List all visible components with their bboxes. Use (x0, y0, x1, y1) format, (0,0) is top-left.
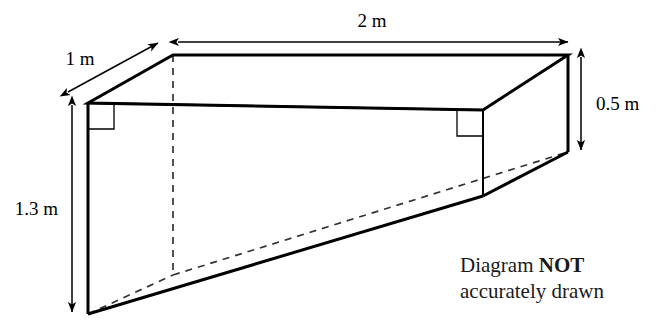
note-line-1-prefix: Diagram (460, 253, 539, 277)
note-line-1: Diagram NOT (460, 253, 584, 277)
edge-top-face (88, 55, 568, 110)
right-angle-marker-left (88, 103, 114, 129)
label-short-height: 0.5 m (596, 93, 640, 114)
edge-front-bottom-slope (88, 196, 483, 314)
label-tall-height: 1.3 m (15, 198, 59, 219)
note-line-2: accurately drawn (460, 279, 604, 303)
label-depth: 1 m (65, 48, 94, 69)
note-line-1-emphasis: NOT (539, 253, 585, 277)
edge-front-top-horizontal (88, 103, 483, 110)
right-angle-marker-right (457, 110, 483, 136)
prism-figure: 1 m 2 m 0.5 m 1.3 m Diagram NOT accurate… (0, 0, 658, 329)
label-length: 2 m (357, 10, 386, 31)
diagram-container: 1 m 2 m 0.5 m 1.3 m Diagram NOT accurate… (0, 0, 658, 329)
hidden-edge-bottom-left-diagonal (88, 275, 173, 314)
